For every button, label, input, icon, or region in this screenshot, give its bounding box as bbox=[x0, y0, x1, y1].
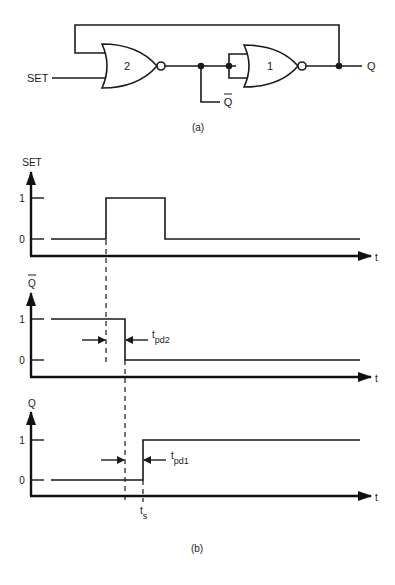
junction-dot-icon bbox=[336, 63, 343, 70]
nor-gate-1: 1 bbox=[244, 45, 306, 87]
q-waveform bbox=[51, 440, 360, 480]
trace-set-label: SET bbox=[22, 157, 41, 168]
gate-2-label: 2 bbox=[124, 60, 130, 72]
set-waveform bbox=[51, 198, 360, 239]
trace-q-label: Q bbox=[28, 398, 36, 409]
caption-b: (b) bbox=[191, 543, 203, 554]
inversion-bubble-icon bbox=[157, 62, 165, 70]
tpd1-label: tpd1 bbox=[171, 450, 189, 466]
svg-text:0: 0 bbox=[19, 475, 25, 486]
latch-circuit: 2 Q 1 SET Q (a) bbox=[27, 25, 376, 133]
svg-text:1: 1 bbox=[19, 435, 25, 446]
svg-text:t: t bbox=[375, 492, 378, 503]
timing-diagram: SET t 1 0 Q t 1 0 tpd2 bbox=[19, 157, 378, 554]
trace-set: SET t 1 0 bbox=[19, 157, 378, 263]
trace-qbar-label: Q bbox=[28, 278, 36, 289]
svg-text:t: t bbox=[375, 373, 378, 384]
qbar-output-label: Q bbox=[224, 94, 233, 108]
q-output-label: Q bbox=[367, 60, 376, 72]
set-input-label: SET bbox=[27, 72, 49, 84]
inversion-bubble-icon bbox=[298, 62, 306, 70]
ts-label: ts bbox=[140, 505, 148, 521]
svg-text:Q: Q bbox=[224, 96, 233, 108]
trace-q: Q t 1 0 tpd1 ts bbox=[19, 398, 378, 521]
tpd2-label: tpd2 bbox=[152, 329, 170, 345]
svg-text:0: 0 bbox=[19, 234, 25, 245]
svg-text:1: 1 bbox=[19, 314, 25, 325]
svg-text:1: 1 bbox=[19, 193, 25, 204]
caption-a: (a) bbox=[192, 122, 204, 133]
qbar-output-wire bbox=[201, 66, 220, 102]
svg-text:0: 0 bbox=[19, 355, 25, 366]
time-axis-label: t bbox=[375, 252, 378, 263]
gate-1-label: 1 bbox=[267, 60, 273, 72]
nor-gate-2: 2 bbox=[102, 44, 165, 88]
trace-qbar: Q t 1 0 tpd2 bbox=[19, 275, 378, 384]
diagram-canvas: 2 Q 1 SET Q (a) bbox=[0, 0, 395, 585]
